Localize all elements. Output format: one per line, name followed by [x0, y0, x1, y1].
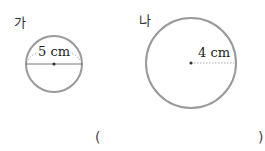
- measure-ga: 5 cm: [38, 44, 70, 59]
- circles-diagram: [0, 0, 265, 151]
- answer-open-paren: (: [95, 129, 100, 145]
- answer-close-paren: ): [258, 129, 263, 145]
- measure-na: 4 cm: [198, 45, 230, 60]
- circle-na: [146, 18, 236, 108]
